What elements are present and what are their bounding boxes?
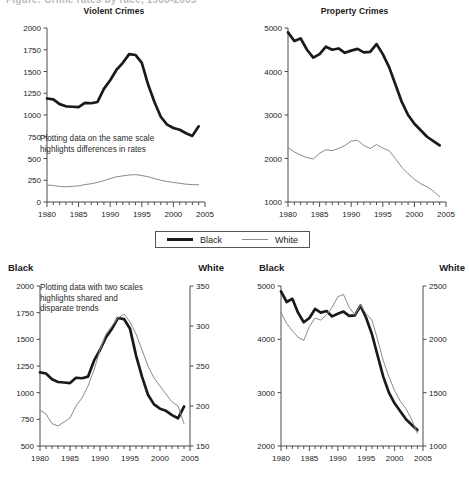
x-tick-label: 1985 <box>301 454 319 463</box>
figure-root: Figure: Crime rates by race, 1980-2005 V… <box>0 0 469 478</box>
y-tick-label-right: 250 <box>196 362 210 371</box>
y-tick-label-left: 1750 <box>23 46 41 55</box>
y-tick-label-right: 2000 <box>429 335 447 344</box>
y-tick-label-right: 1000 <box>429 442 447 451</box>
annotation-line-1: Plotting data on the same scale <box>40 134 205 145</box>
panel-violent-crimes-dual-scale: Black White Plotting data with two scale… <box>0 262 232 478</box>
x-tick-label: 1990 <box>329 454 347 463</box>
annotation-two-scales: Plotting data with two scales highlights… <box>40 283 190 315</box>
left-axis-title-black-bl: Black <box>8 262 33 273</box>
x-tick-label: 2000 <box>386 454 404 463</box>
legend: Black White <box>155 231 310 248</box>
x-tick-label: 2005 <box>196 210 214 219</box>
panel-title-violent-crimes: Violent Crimes <box>0 6 228 16</box>
y-tick-label-left: 3000 <box>264 111 282 120</box>
annotation2-line-1: Plotting data with two scales <box>40 283 190 294</box>
x-tick-label: 2005 <box>414 454 432 463</box>
y-tick-label-left: 1000 <box>23 111 41 120</box>
y-tick-label-left: 5000 <box>257 282 275 291</box>
y-tick-label-left: 1000 <box>264 198 282 207</box>
y-tick-label-left: 1250 <box>16 362 34 371</box>
y-tick-label-left: 2000 <box>257 442 275 451</box>
y-tick-label-right: 300 <box>196 322 210 331</box>
y-tick-label-left: 4000 <box>264 68 282 77</box>
x-tick-label: 1980 <box>272 454 290 463</box>
y-tick-label-left: 3000 <box>257 389 275 398</box>
y-tick-label-right: 1500 <box>429 389 447 398</box>
x-tick-label: 1980 <box>38 210 56 219</box>
legend-entry-white: White <box>242 235 298 245</box>
panel-title-property-crimes: Property Crimes <box>240 6 469 16</box>
annotation2-line-3: disparate trends <box>40 304 190 315</box>
series-line-white <box>47 175 199 187</box>
y-tick-label-left: 250 <box>28 176 42 185</box>
left-axis-title-black-br: Black <box>259 262 284 273</box>
y-tick-label-left: 750 <box>21 415 35 424</box>
y-tick-label-left: 2000 <box>16 282 34 291</box>
x-tick-label: 1980 <box>31 454 49 463</box>
x-tick-label: 1990 <box>101 210 119 219</box>
legend-line-black-icon <box>167 238 193 241</box>
y-tick-label-left: 1750 <box>16 309 34 318</box>
y-tick-label-left: 2000 <box>264 155 282 164</box>
y-tick-label-right: 200 <box>196 402 210 411</box>
panel-property-crimes-dual-scale: Black White 2000300040005000100015002000… <box>237 262 469 478</box>
series-line-black <box>281 291 417 430</box>
y-tick-label-left: 500 <box>21 442 35 451</box>
figure-caption-cut: Figure: Crime rates by race, 1980-2005 <box>6 0 196 5</box>
series-line-black <box>40 318 184 418</box>
right-axis-title-white-br: White <box>439 262 465 273</box>
y-tick-label-left: 5000 <box>264 24 282 33</box>
legend-entry-black: Black <box>167 235 222 245</box>
legend-label-black: Black <box>200 235 222 245</box>
panel-violent-crimes-single-scale: Violent Crimes Plotting data on the same… <box>0 6 228 224</box>
x-tick-label: 1995 <box>357 454 375 463</box>
x-tick-label: 1995 <box>133 210 151 219</box>
y-tick-label-left: 1500 <box>16 335 34 344</box>
y-tick-label-right: 350 <box>196 282 210 291</box>
series-line-black <box>47 54 199 136</box>
series-line-black <box>288 32 440 145</box>
legend-line-white-icon <box>242 239 268 240</box>
panel-property-crimes-single-scale: Property Crimes 100020003000400050001980… <box>240 6 469 224</box>
y-tick-label-right: 2500 <box>429 282 447 291</box>
annotation-same-scale: Plotting data on the same scale highligh… <box>40 134 205 155</box>
y-tick-label-right: 150 <box>196 442 210 451</box>
annotation-line-2: highlights differences in rates <box>40 145 205 156</box>
x-tick-label: 1985 <box>311 210 329 219</box>
legend-label-white: White <box>275 235 298 245</box>
chart-svg-bottom-right: 2000300040005000100015002000250019801985… <box>237 262 469 478</box>
x-tick-label: 1985 <box>70 210 88 219</box>
x-tick-label: 1990 <box>342 210 360 219</box>
series-line-white <box>288 140 440 197</box>
y-tick-label-left: 4000 <box>257 335 275 344</box>
x-tick-label: 1995 <box>121 454 139 463</box>
y-tick-label-left: 1500 <box>23 68 41 77</box>
chart-svg-top-left: 0250500750100012501500175020001980198519… <box>0 6 228 224</box>
x-tick-label: 1980 <box>279 210 297 219</box>
chart-svg-top-right: 1000200030004000500019801985199019952000… <box>240 6 469 224</box>
x-tick-label: 2000 <box>151 454 169 463</box>
x-tick-label: 2005 <box>181 454 199 463</box>
x-tick-label: 2005 <box>437 210 455 219</box>
right-axis-title-white-bl: White <box>198 262 224 273</box>
y-tick-label-left: 1250 <box>23 89 41 98</box>
y-tick-label-left: 0 <box>37 198 42 207</box>
x-tick-label: 1990 <box>91 454 109 463</box>
annotation2-line-2: highlights shared and <box>40 294 190 305</box>
y-tick-label-left: 1000 <box>16 389 34 398</box>
y-tick-label-left: 2000 <box>23 24 41 33</box>
x-tick-label: 2000 <box>406 210 424 219</box>
x-tick-label: 1985 <box>61 454 79 463</box>
x-tick-label: 2000 <box>165 210 183 219</box>
x-tick-label: 1995 <box>374 210 392 219</box>
y-tick-label-left: 500 <box>28 155 42 164</box>
